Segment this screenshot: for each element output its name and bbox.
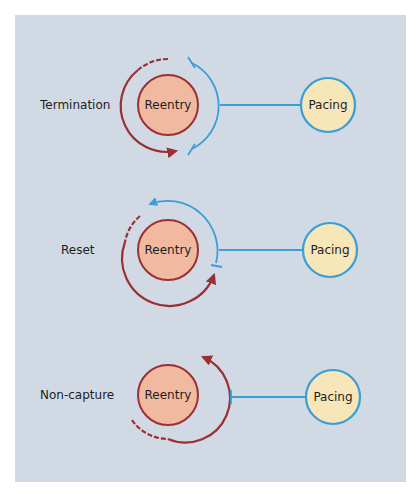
block-bar [211, 265, 222, 267]
section-non-capture: Non-capture Reentry Pacing [40, 357, 360, 443]
reentry-wavefront-dashed [138, 59, 168, 70]
section-label: Termination [39, 98, 110, 112]
block-bar-top [188, 57, 195, 68]
section-termination: Termination Reentry Pacing [39, 57, 355, 155]
block-bar-bottom [188, 144, 195, 155]
pacing-label: Pacing [310, 243, 349, 257]
section-label: Reset [61, 243, 95, 257]
reentry-pacing-diagram: Termination Reentry Pacing Reset Reentry… [0, 0, 420, 494]
pacing-label: Pacing [313, 390, 352, 404]
section-reset: Reset Reentry Pacing [61, 201, 357, 306]
reentry-wavefront-dashed [125, 216, 140, 242]
reentry-label: Reentry [145, 98, 192, 112]
pacing-label: Pacing [308, 98, 347, 112]
section-label: Non-capture [40, 388, 114, 402]
reentry-label: Reentry [145, 388, 192, 402]
reentry-label: Reentry [145, 243, 192, 257]
